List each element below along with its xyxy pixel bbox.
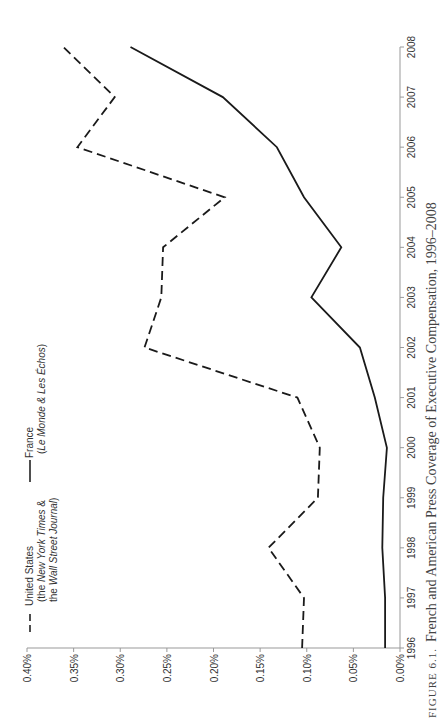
axes: 0.00%0.05%0.10%0.15%0.20%0.25%0.30%0.35%… [22, 35, 417, 682]
year-tick-label: 2008 [406, 35, 417, 58]
value-tick-label: 0.20% [209, 654, 220, 682]
year-tick-label: 2006 [406, 136, 417, 159]
year-tick-label: 1998 [406, 536, 417, 559]
value-tick-label: 0.00% [395, 654, 406, 682]
year-tick-label: 1999 [406, 486, 417, 509]
value-tick-label: 0.05% [348, 654, 359, 682]
france-legend-line1: France [24, 426, 35, 458]
year-tick-label: 2005 [406, 186, 417, 209]
year-tick-label: 2004 [406, 236, 417, 259]
value-tick-label: 0.25% [162, 654, 173, 682]
france-legend-line2: (Le Monde & Les Échos) [35, 344, 47, 454]
line-chart: 0.00%0.05%0.10%0.15%0.20%0.25%0.30%0.35%… [0, 0, 442, 726]
us-legend-line3: the Wall Street Journal) [48, 498, 59, 602]
value-tick-label: 0.30% [115, 654, 126, 682]
us-legend-line2: (the New York Times & [36, 500, 47, 602]
year-tick-label: 2000 [406, 436, 417, 459]
figure-caption: FIGURE 6.1.French and American Press Cov… [424, 202, 439, 718]
france-series-line [131, 47, 387, 648]
us-series-line [63, 47, 319, 648]
value-tick-label: 0.40% [22, 654, 33, 682]
year-tick-label: 1997 [406, 586, 417, 609]
year-tick-label: 2001 [406, 386, 417, 409]
us-legend-line1: United States [24, 546, 35, 606]
data-lines [63, 47, 387, 648]
legend: United States (the New York Times & the … [24, 344, 59, 632]
year-tick-label: 2002 [406, 336, 417, 359]
svg-text:FIGURE 6.1.French and American: FIGURE 6.1.French and American Press Cov… [424, 202, 439, 718]
year-tick-label: 1996 [406, 636, 417, 659]
year-tick-label: 2003 [406, 286, 417, 309]
value-tick-label: 0.35% [69, 654, 80, 682]
value-tick-label: 0.15% [255, 654, 266, 682]
year-tick-label: 2007 [406, 86, 417, 109]
value-tick-label: 0.10% [302, 654, 313, 682]
